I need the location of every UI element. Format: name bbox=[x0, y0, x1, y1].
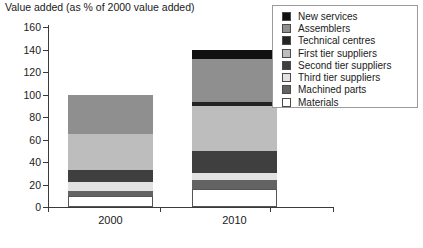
legend-item-label: Second tier suppliers bbox=[298, 60, 391, 71]
legend-item-label: Technical centres bbox=[298, 35, 375, 46]
x-tick-mark bbox=[48, 207, 49, 212]
legend-swatch-icon bbox=[282, 73, 291, 82]
y-tick-mark bbox=[43, 95, 49, 96]
legend-item-label: Third tier suppliers bbox=[298, 72, 380, 83]
legend-item-label: Materials bbox=[298, 97, 339, 108]
bar-segment bbox=[192, 59, 277, 103]
bar-segment bbox=[192, 180, 277, 189]
x-tick-mark bbox=[333, 207, 334, 212]
y-tick-mark bbox=[43, 140, 49, 141]
legend-item-label: Assemblers bbox=[298, 23, 350, 34]
legend-item-assemblers[interactable]: Assemblers bbox=[282, 22, 391, 34]
y-tick-mark bbox=[43, 185, 49, 186]
y-tick-label-text: 120 bbox=[23, 67, 41, 77]
y-tick-label: 20 bbox=[0, 180, 41, 190]
y-tick-label-text: 20 bbox=[29, 180, 41, 190]
legend-swatch-icon bbox=[282, 49, 291, 58]
legend-item-materials[interactable]: Materials bbox=[282, 96, 391, 108]
bar-segment bbox=[68, 170, 153, 182]
legend-item-label: First tier suppliers bbox=[298, 48, 377, 59]
bar-2010 bbox=[192, 27, 277, 207]
bar-segment bbox=[68, 134, 153, 170]
legend-swatch-icon bbox=[282, 24, 291, 33]
bar-segment bbox=[192, 106, 277, 151]
legend-item-new-services[interactable]: New services bbox=[282, 10, 391, 22]
y-tick-mark bbox=[43, 50, 49, 51]
chart-title: Value added (as % of 2000 value added) bbox=[5, 1, 195, 13]
bar-segment bbox=[68, 95, 153, 134]
x-tick-mark bbox=[270, 207, 271, 212]
legend-item-machined-parts[interactable]: Machined parts bbox=[282, 84, 391, 96]
bar-segment bbox=[192, 189, 277, 207]
legend-item-label: Machined parts bbox=[298, 84, 366, 95]
legend-item-third-tier-suppliers[interactable]: Third tier suppliers bbox=[282, 71, 391, 83]
x-axis-line bbox=[48, 207, 333, 208]
x-tick-label-2010: 2010 bbox=[205, 214, 265, 227]
y-tick-label-text: 100 bbox=[23, 90, 41, 100]
y-tick-mark bbox=[43, 162, 49, 163]
y-tick-label-text: 40 bbox=[29, 157, 41, 167]
bar-segment bbox=[68, 191, 153, 196]
y-tick-label: 120 bbox=[0, 67, 41, 77]
legend-swatch-icon bbox=[282, 12, 291, 21]
legend-item-first-tier-suppliers[interactable]: First tier suppliers bbox=[282, 47, 391, 59]
legend-item-label: New services bbox=[298, 11, 357, 22]
legend-item-second-tier-suppliers[interactable]: Second tier suppliers bbox=[282, 59, 391, 71]
legend-swatch-icon bbox=[282, 36, 291, 45]
legend-item-technical-centres[interactable]: Technical centres bbox=[282, 35, 391, 47]
y-tick-label-text: 160 bbox=[23, 22, 41, 32]
bar-segment bbox=[192, 173, 277, 180]
bar-segment bbox=[192, 102, 277, 105]
y-tick-label: 100 bbox=[0, 90, 41, 100]
chart-legend: New servicesAssemblersTechnical centresF… bbox=[272, 5, 418, 108]
y-tick-label-text: 80 bbox=[29, 112, 41, 122]
x-tick-label-2000: 2000 bbox=[81, 214, 141, 227]
y-tick-label: 80 bbox=[0, 112, 41, 122]
y-tick-label-text: 60 bbox=[29, 135, 41, 145]
y-tick-mark bbox=[43, 72, 49, 73]
bar-2000 bbox=[68, 27, 153, 207]
chart-figure: Value added (as % of 2000 value added) 0… bbox=[0, 0, 423, 248]
bar-segment bbox=[192, 151, 277, 174]
y-tick-mark bbox=[43, 117, 49, 118]
bar-segment bbox=[68, 196, 153, 207]
y-tick-label-text: 0 bbox=[35, 202, 41, 212]
bar-segment bbox=[192, 50, 277, 59]
y-tick-label: 160 bbox=[0, 22, 41, 32]
y-tick-label: 140 bbox=[0, 45, 41, 55]
y-tick-label: 0 bbox=[0, 202, 41, 212]
bar-segment bbox=[68, 182, 153, 191]
y-tick-mark bbox=[43, 27, 49, 28]
legend-swatch-icon bbox=[282, 98, 291, 107]
y-tick-label: 40 bbox=[0, 157, 41, 167]
y-tick-label-text: 140 bbox=[23, 45, 41, 55]
legend-swatch-icon bbox=[282, 85, 291, 94]
y-tick-label: 60 bbox=[0, 135, 41, 145]
legend-list: New servicesAssemblersTechnical centresF… bbox=[282, 10, 391, 108]
x-tick-mark bbox=[160, 207, 161, 212]
legend-swatch-icon bbox=[282, 61, 291, 70]
